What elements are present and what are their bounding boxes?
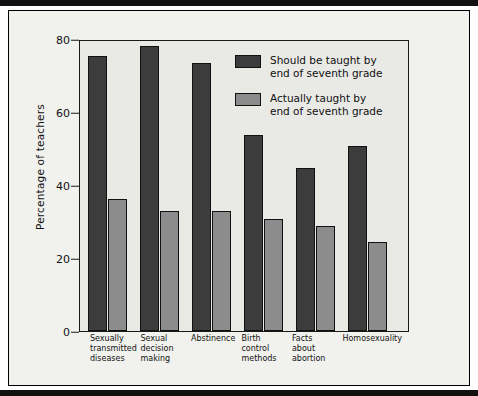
y-tick-label: 0: [63, 326, 70, 339]
x-axis-label-line: control: [241, 344, 289, 354]
x-axis-label-line: making: [140, 354, 188, 364]
bar-should: [296, 168, 315, 331]
bottom-edge-band: [0, 390, 478, 396]
y-tick-mark: [71, 331, 79, 333]
chart-page: Percentage of teachers 80 60 40 20 0: [0, 0, 478, 396]
x-axis-label: Homosexuality: [340, 334, 402, 364]
figure-frame: Percentage of teachers 80 60 40 20 0: [8, 10, 470, 386]
x-axis-label-line: Sexual: [140, 334, 188, 344]
y-tick-label: 20: [56, 253, 70, 266]
y-tick-mark: [71, 39, 79, 41]
x-axis-label-line: Sexually: [90, 334, 138, 344]
bar-should: [348, 146, 367, 331]
y-tick-mark: [71, 258, 79, 260]
y-tick-mark: [71, 185, 79, 187]
y-tick-0: 0: [63, 326, 79, 339]
plot-wrapper: 80 60 40 20 0: [79, 40, 409, 332]
x-axis-label: Factsaboutabortion: [290, 334, 340, 364]
legend-label-line2: end of seventh grade: [270, 105, 383, 118]
x-axis-label: Sexuallytransmitteddiseases: [88, 334, 138, 364]
x-axis-label-line: methods: [241, 354, 289, 364]
bar-group: [88, 41, 140, 331]
x-axis-label-line: about: [292, 344, 340, 354]
y-tick-20: 20: [56, 253, 79, 266]
y-tick-mark: [71, 112, 79, 114]
legend-label-line1: Should be taught by: [270, 54, 383, 67]
x-axis-label-line: Facts: [292, 334, 340, 344]
y-tick-40: 40: [56, 180, 79, 193]
bar-actually: [212, 211, 231, 331]
light-swatch-icon: [235, 93, 261, 106]
y-tick-60: 60: [56, 107, 79, 120]
bar-should: [192, 63, 211, 331]
legend-entry-actually: Actually taught by end of seventh grade: [235, 92, 383, 117]
dark-swatch-icon: [235, 55, 261, 68]
y-tick-label: 80: [56, 34, 70, 47]
legend-label-actually: Actually taught by end of seventh grade: [270, 92, 383, 117]
x-axis-label-line: Homosexuality: [342, 334, 402, 344]
bar-group: [140, 41, 192, 331]
legend: Should be taught by end of seventh grade…: [235, 54, 383, 117]
legend-label-line2: end of seventh grade: [270, 67, 383, 80]
bar-should: [244, 135, 263, 331]
top-edge-band: [0, 0, 478, 6]
bar-actually: [160, 211, 179, 331]
x-axis-label-line: decision: [140, 344, 188, 354]
x-axis-label-line: Abstinence: [191, 334, 239, 344]
legend-label-line1: Actually taught by: [270, 92, 383, 105]
x-axis-label-line: transmitted: [90, 344, 138, 354]
y-axis-title: Percentage of teachers: [34, 92, 46, 242]
y-tick-label: 40: [56, 180, 70, 193]
x-axis-label-line: Birth: [241, 334, 289, 344]
x-axis-label-line: diseases: [90, 354, 138, 364]
bar-actually: [316, 226, 335, 331]
y-tick-label: 60: [56, 107, 70, 120]
bar-actually: [108, 199, 127, 331]
x-axis-labels: SexuallytransmitteddiseasesSexualdecisio…: [80, 334, 410, 364]
legend-entry-should: Should be taught by end of seventh grade: [235, 54, 383, 79]
legend-label-should: Should be taught by end of seventh grade: [270, 54, 383, 79]
bar-should: [88, 56, 107, 332]
x-axis-label: Birthcontrolmethods: [239, 334, 289, 364]
x-axis-label-line: abortion: [292, 354, 340, 364]
bar-actually: [264, 219, 283, 331]
bar-actually: [368, 242, 387, 331]
x-axis-label: Sexualdecisionmaking: [138, 334, 188, 364]
bar-should: [140, 46, 159, 331]
x-axis-label: Abstinence: [189, 334, 239, 364]
y-tick-80: 80: [56, 34, 79, 47]
